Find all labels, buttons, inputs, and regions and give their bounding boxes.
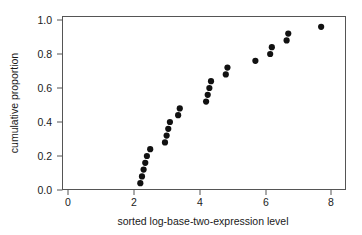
data-point [139, 173, 145, 179]
y-tick-label: 1.0 [37, 14, 52, 26]
data-point [167, 119, 173, 125]
data-point [267, 51, 273, 57]
y-tick-label: 0.8 [37, 48, 52, 60]
data-point [223, 71, 229, 77]
data-points-layer [137, 24, 324, 187]
data-point [142, 160, 148, 166]
data-point [162, 139, 168, 145]
x-tick-label: 0 [65, 196, 71, 208]
data-point [164, 133, 170, 139]
data-point [252, 58, 258, 64]
y-tick-label: 0.2 [37, 150, 52, 162]
x-tick-label: 6 [263, 196, 269, 208]
data-point [144, 153, 150, 159]
y-tick-label: 0.4 [37, 116, 52, 128]
data-point [269, 44, 275, 50]
data-point [203, 99, 209, 105]
data-point [175, 112, 181, 118]
y-tick-label: 0.6 [37, 82, 52, 94]
data-point [318, 24, 324, 30]
data-point [147, 146, 153, 152]
data-point [206, 85, 212, 91]
x-tick-label: 8 [328, 196, 334, 208]
x-tick-label: 2 [131, 196, 137, 208]
data-point [208, 78, 214, 84]
x-axis-ticks [68, 190, 331, 196]
y-axis-tick-labels: 1.0 0.8 0.6 0.4 0.2 0.0 [37, 14, 52, 196]
data-point [137, 180, 143, 186]
x-tick-label: 4 [197, 196, 203, 208]
plot-canvas: 1.0 0.8 0.6 0.4 0.2 0.0 0 2 4 6 8 sorted… [0, 0, 362, 235]
y-axis-ticks [57, 20, 63, 190]
x-axis-tick-labels: 0 2 4 6 8 [65, 196, 334, 208]
data-point [177, 105, 183, 111]
data-point [141, 167, 147, 173]
data-point [285, 30, 291, 36]
data-point [165, 126, 171, 132]
ecdf-scatter-figure: 1.0 0.8 0.6 0.4 0.2 0.0 0 2 4 6 8 sorted… [0, 0, 362, 235]
x-axis-title: sorted log-base-two-expression level [118, 215, 289, 227]
data-point [205, 92, 211, 98]
y-axis-title: cumulative proportion [8, 53, 20, 154]
data-point [224, 65, 230, 71]
y-tick-label: 0.0 [37, 184, 52, 196]
data-point [284, 37, 290, 43]
